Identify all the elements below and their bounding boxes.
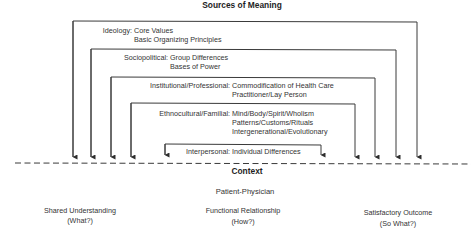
ideology-label: Ideology: bbox=[103, 26, 132, 35]
sociopolitical-value: Bases of Power bbox=[170, 62, 220, 71]
ideology-value: Core Values bbox=[134, 26, 173, 35]
outcome-label: Shared Understanding bbox=[44, 206, 116, 215]
outcome-question: (How?) bbox=[231, 217, 254, 226]
sociopolitical-label: Sociopolitical: bbox=[124, 53, 168, 62]
sociopolitical-value: Group Differences bbox=[170, 53, 228, 62]
outcome-question: (So What?) bbox=[380, 219, 416, 228]
institutional-value: Commodification of Health Care bbox=[232, 81, 334, 90]
outcome-label: Functional Relationship bbox=[206, 206, 281, 215]
ideology-value: Basic Organizing Principles bbox=[134, 35, 222, 44]
context-divider bbox=[15, 163, 471, 164]
ethnocultural-label: Ethnocultural/Familial: bbox=[159, 109, 230, 118]
interpersonal-value: Individual Differences bbox=[232, 147, 301, 156]
institutional-value: Practitioner/Lay Person bbox=[232, 90, 307, 99]
context-heading: Context bbox=[231, 167, 262, 176]
outcome-question: (What?) bbox=[67, 216, 93, 225]
ethnocultural-value: Mind/Body/Spirit/Wholism bbox=[232, 109, 314, 118]
ethnocultural-value: Patterns/Customs/Rituals bbox=[232, 118, 313, 127]
diagram-title: Sources of Meaning bbox=[202, 1, 282, 10]
context-subheading: Patient-Physician bbox=[216, 187, 275, 196]
outcome-label: Satisfactory Outcome bbox=[364, 208, 433, 217]
institutional-label: Institutional/Professional: bbox=[150, 81, 230, 90]
interpersonal-label: Interpersonal: bbox=[186, 147, 230, 156]
ethnocultural-value: Intergenerational/Evolutionary bbox=[232, 127, 328, 136]
